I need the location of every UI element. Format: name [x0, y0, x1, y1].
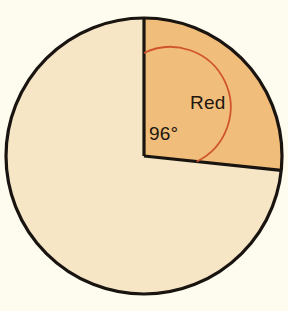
angle-measure-label: 96°: [149, 124, 178, 143]
pie-chart-svg: [0, 0, 288, 311]
sector-label: Red: [190, 93, 225, 112]
pie-chart-figure: Red 96°: [0, 0, 288, 311]
